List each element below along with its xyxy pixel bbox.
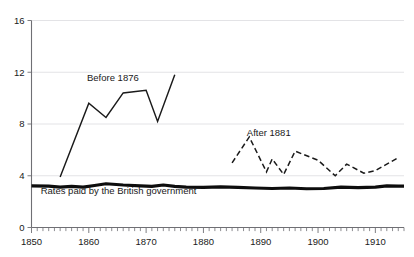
series-label-rates-paid: Rates paid by the British government: [41, 185, 197, 196]
y-tick-label-0: 0: [19, 222, 24, 233]
x-tick-label-1880: 1880: [193, 236, 214, 247]
y-tick-label-16: 16: [14, 15, 25, 26]
x-tick-label-1850: 1850: [21, 236, 42, 247]
series-label-before-1876: Before 1876: [87, 72, 139, 83]
chart-background: [0, 0, 414, 257]
x-tick-label-1890: 1890: [250, 236, 271, 247]
x-tick-label-1860: 1860: [78, 236, 99, 247]
y-tick-label-8: 8: [19, 118, 24, 129]
chart-container: 0481216 1850186018701880189019001910 Bef…: [0, 0, 414, 257]
x-tick-label-1870: 1870: [136, 236, 157, 247]
y-tick-label-12: 12: [14, 67, 25, 78]
x-tick-label-1900: 1900: [307, 236, 328, 247]
y-tick-label-4: 4: [19, 170, 24, 181]
x-tick-label-1910: 1910: [365, 236, 386, 247]
series-label-after-1881: After 1881: [247, 127, 291, 138]
line-chart: 0481216 1850186018701880189019001910 Bef…: [0, 0, 414, 257]
